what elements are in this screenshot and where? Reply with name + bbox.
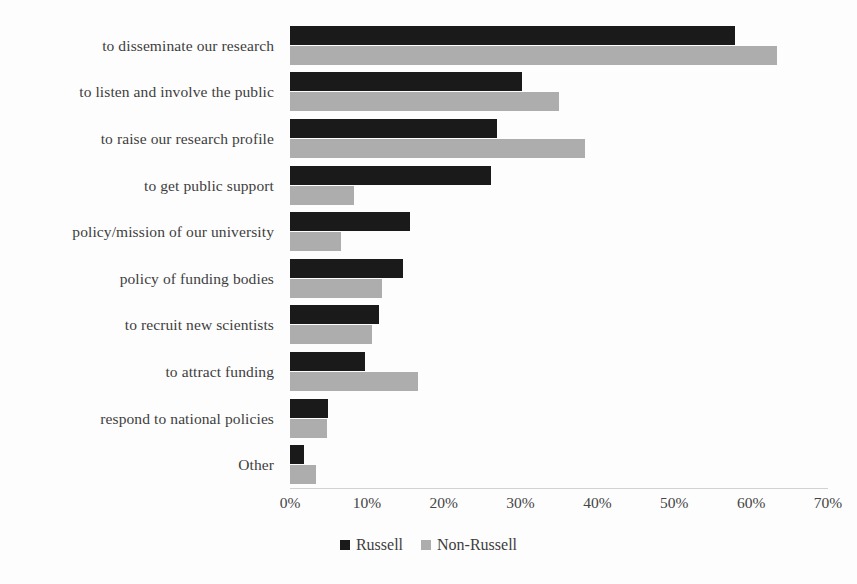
category-label: Other [238,456,274,473]
bar-group [290,115,828,162]
x-axis-line [290,488,828,489]
category-label: policy/mission of our university [72,223,274,240]
bar-group [290,208,828,255]
bar-russell [290,445,304,464]
category-label: to recruit new scientists [125,316,274,333]
bar-group [290,348,828,395]
category-label: to disseminate our research [102,37,274,54]
bar-group [290,302,828,349]
legend-item-non-russell[interactable]: Non-Russell [421,536,517,554]
bar-chart: to disseminate our researchto listen and… [0,0,857,584]
bar-non-russell [290,232,341,251]
bar-non-russell [290,186,354,205]
x-tick-label: 20% [409,494,479,512]
category-label: policy of funding bodies [120,270,274,287]
bar-group [290,441,828,488]
category-label: to raise our research profile [101,130,274,147]
x-tick-label: 0% [255,494,325,512]
bar-non-russell [290,279,382,298]
x-tick-label: 30% [486,494,556,512]
x-tick-label: 60% [716,494,786,512]
x-tick-label: 50% [639,494,709,512]
legend-label: Russell [356,536,403,554]
bar-non-russell [290,92,559,111]
category-label: respond to national policies [100,410,274,427]
bar-russell [290,352,365,371]
bar-group [290,162,828,209]
bar-non-russell [290,465,316,484]
x-tick-label: 70% [793,494,857,512]
bar-non-russell [290,46,777,65]
bar-non-russell [290,139,585,158]
category-label-row: policy of funding bodies [0,255,282,302]
category-axis-labels: to disseminate our researchto listen and… [0,22,282,488]
x-tick-label: 40% [562,494,632,512]
bar-group [290,395,828,442]
bar-russell [290,212,410,231]
category-label: to listen and involve the public [79,83,274,100]
chart-legend: RussellNon-Russell [0,536,857,554]
bar-group [290,69,828,116]
category-label: to attract funding [165,363,274,380]
category-label-row: policy/mission of our university [0,208,282,255]
bar-russell [290,399,328,418]
plot-area [290,22,828,488]
bar-non-russell [290,325,372,344]
category-label-row: to attract funding [0,348,282,395]
bar-russell [290,259,403,278]
bar-russell [290,72,522,91]
legend-item-russell[interactable]: Russell [340,536,403,554]
bar-group [290,22,828,69]
bar-russell [290,119,497,138]
legend-swatch-icon [340,540,350,550]
category-label-row: to get public support [0,162,282,209]
category-label-row: to recruit new scientists [0,302,282,349]
category-label-row: Other [0,441,282,488]
bar-non-russell [290,419,327,438]
category-label-row: respond to national policies [0,395,282,442]
category-label: to get public support [144,177,274,194]
bar-non-russell [290,372,418,391]
bar-russell [290,305,379,324]
bar-group [290,255,828,302]
category-label-row: to raise our research profile [0,115,282,162]
category-label-row: to disseminate our research [0,22,282,69]
x-axis-tick-labels: 0%10%20%30%40%50%60%70% [0,494,857,520]
legend-swatch-icon [421,540,431,550]
bar-russell [290,166,491,185]
category-label-row: to listen and involve the public [0,69,282,116]
bar-russell [290,26,735,45]
legend-label: Non-Russell [437,536,517,554]
x-tick-label: 10% [332,494,402,512]
